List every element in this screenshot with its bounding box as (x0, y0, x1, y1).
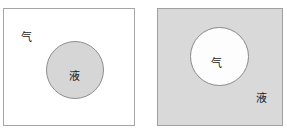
label-liquid-phase-left: 液 (69, 71, 80, 82)
phase-diagram-figure: 气 液 气 液 (0, 0, 287, 132)
panel-gas-bubble-in-liquid: 气 液 (157, 8, 283, 126)
label-liquid-phase-right: 液 (256, 93, 267, 104)
panel-liquid-droplet-in-gas: 气 液 (3, 8, 135, 126)
label-gas-phase-right: 气 (211, 58, 222, 69)
label-gas-phase-left: 气 (21, 32, 32, 43)
